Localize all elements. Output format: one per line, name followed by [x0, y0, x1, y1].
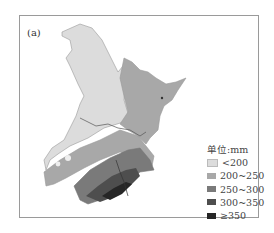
legend-label: <200	[222, 156, 248, 169]
legend-label: 200~250	[220, 169, 264, 182]
legend-swatch	[207, 213, 216, 219]
panel-label: (a)	[27, 27, 41, 38]
legend-item: <200	[207, 156, 264, 169]
legend-label: 300~350	[220, 196, 264, 209]
spot	[65, 155, 71, 161]
legend-item: 300~350	[207, 196, 264, 209]
legend-swatch	[207, 159, 218, 167]
legend: 单位:mm <200 200~250 250~300 300~350 ≥350	[207, 143, 264, 222]
legend-title: 单位:mm	[207, 143, 264, 156]
legend-item: 200~250	[207, 169, 264, 182]
region-200-250-ne	[120, 58, 186, 144]
legend-swatch	[207, 186, 216, 192]
legend-label: ≥350	[220, 209, 246, 222]
spot	[56, 162, 61, 167]
city-dot	[161, 97, 163, 99]
legend-item: 250~300	[207, 183, 264, 196]
legend-item: ≥350	[207, 209, 264, 222]
legend-swatch	[207, 199, 216, 205]
legend-swatch	[207, 173, 216, 179]
legend-label: 250~300	[220, 183, 264, 196]
